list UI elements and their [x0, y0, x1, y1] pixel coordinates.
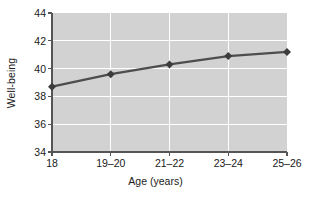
x-axis-tick-label: 18	[46, 157, 58, 170]
x-axis-tick-label: 21–22	[155, 157, 184, 170]
chart-figure: Well-being 343638404244 1819–2021–2223–2…	[0, 0, 311, 198]
x-axis-tick-label: 23–24	[214, 157, 243, 170]
x-axis-title: Age (years)	[0, 175, 311, 187]
x-axis-tick-label: 19–20	[96, 157, 125, 170]
x-axis-tick-labels: 1819–2021–2223–2425–26	[0, 157, 311, 171]
x-axis-tick-label: 25–26	[272, 157, 301, 170]
